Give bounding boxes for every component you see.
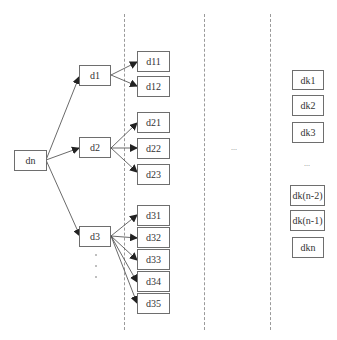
node-dk1: dk1 [292,70,324,90]
continuation-dot [95,276,97,278]
edge-d2-d21 [111,123,137,148]
edge-d1-d12 [111,75,137,86]
edge-d2-d23 [111,148,137,172]
node-dkn: dkn [292,237,324,258]
node-dk3: dk3 [292,122,324,143]
node-d3: d3 [79,226,111,247]
node-d35: d35 [137,293,170,314]
edge-d3-d31 [111,215,137,236]
node-d33: d33 [137,249,170,270]
edge-dn-d2 [46,148,79,160]
node-dk2: dk2 [292,95,324,116]
node-d2: d2 [79,137,111,158]
edge-dn-d1 [46,77,79,160]
node-d23: d23 [137,164,170,185]
edge-d1-d11 [111,62,137,75]
edge-d3-d32 [111,236,137,238]
node-d22: d22 [137,138,170,159]
edge-dn-d3 [46,160,80,236]
node-d1: d1 [79,65,111,86]
node-d11: d11 [137,51,170,72]
edge-d3-d33 [111,236,137,260]
node-d31: d31 [137,205,170,226]
edge-d3-d35 [111,236,137,303]
node-d34: d34 [137,271,170,292]
tree-diagram: dn d1 d2 d3 d11 d12 d21 d22 d23 d31 d32 … [0,0,337,340]
node-dn: dn [14,150,47,171]
continuation-dot [95,254,97,256]
node-d32: d32 [137,227,170,248]
node-dk-n-2: dk(n-2) [290,185,325,206]
node-dk-n-1: dk(n-1) [290,210,325,231]
continuation-dot [95,265,97,267]
last-column-ellipsis: ... [304,160,310,168]
edge-d3-d34 [111,236,137,282]
middle-ellipsis: ... [231,144,237,152]
node-d21: d21 [137,112,170,133]
node-d12: d12 [137,76,170,97]
